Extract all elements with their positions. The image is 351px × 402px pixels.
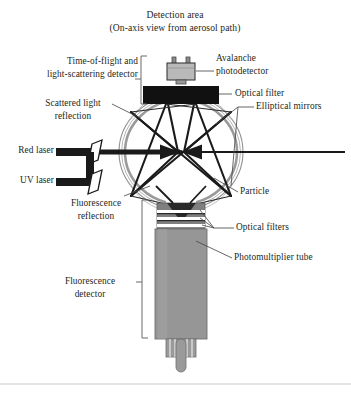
label-particle: Particle [240,186,300,196]
label-fluorescence-detector-line1: Fluorescence [48,276,132,286]
label-time-of-flight-line1: Time-of-flight and [14,56,138,66]
label-scattered-light-line2: reflection [30,111,116,121]
label-photomultiplier-tube: Photomultiplier tube [234,252,350,262]
label-uv-laser: UV laser [2,175,54,185]
label-optical-filter: Optical filter [235,88,345,98]
figure-title-line2: (On-axis view from aerosol path) [60,23,290,34]
label-red-laser: Red laser [2,145,54,155]
avalanche-photodetector [167,57,195,84]
pmt-highlight [158,229,167,339]
label-fluorescence-detector-line2: detector [48,289,132,299]
bracket-fluorescence-detector [142,200,148,338]
label-avalanche-line2: photodetector [216,66,326,76]
label-elliptical-mirrors: Elliptical mirrors [256,101,351,111]
figure-title-line1: Detection area [60,10,290,21]
label-scattered-light-line1: Scattered light [30,98,116,108]
label-fluorescence-reflection-line2: reflection [56,211,136,221]
particle-dot [179,150,183,154]
pmt-base-pins [166,339,196,372]
label-optical-filters: Optical filters [236,222,336,232]
optical-filters-block [157,203,205,229]
figure-detection-area: Detection area (On-axis view from aeroso… [0,0,351,402]
label-fluorescence-reflection-line1: Fluorescence [56,198,136,208]
label-time-of-flight-line2: light-scattering detector [14,69,138,79]
label-avalanche-line1: Avalanche [216,53,326,63]
